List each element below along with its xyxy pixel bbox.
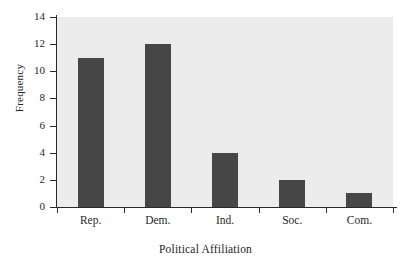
bars-layer — [57, 17, 393, 207]
y-tick-label: 0 — [40, 201, 46, 212]
bar-rep — [78, 58, 104, 207]
y-tick-mark — [50, 44, 57, 45]
bar-ind — [212, 153, 238, 207]
x-tick-mark — [124, 208, 125, 213]
y-tick-mark — [50, 153, 57, 154]
y-tick-mark — [50, 207, 57, 208]
y-tick-label: 8 — [40, 92, 46, 103]
bar-chart-figure: Frequency 02468101214 Rep.Dem.Ind.Soc.Co… — [0, 0, 411, 266]
y-tick-label: 6 — [40, 120, 46, 131]
bar-dem — [145, 44, 171, 207]
x-axis-title: Political Affiliation — [0, 243, 411, 255]
y-tick-label: 2 — [40, 174, 46, 185]
y-tick-label: 10 — [34, 65, 45, 76]
y-tick-mark — [50, 98, 57, 99]
y-tick-label: 12 — [34, 38, 45, 49]
bar-soc — [279, 180, 305, 207]
y-axis-title: Frequency — [13, 33, 25, 143]
x-axis-line — [56, 207, 397, 208]
y-tick-mark — [50, 126, 57, 127]
y-tick-mark — [50, 71, 57, 72]
bar-com — [346, 193, 372, 207]
x-tick-label: Rep. — [57, 214, 124, 227]
x-tick-mark — [259, 208, 260, 213]
y-tick-label: 4 — [40, 147, 46, 158]
x-tick-label: Dem. — [124, 214, 191, 227]
y-tick-mark — [50, 17, 57, 18]
y-tick-mark — [50, 180, 57, 181]
x-tick-label: Com. — [326, 214, 393, 227]
x-tick-mark — [57, 208, 58, 213]
x-tick-label: Ind. — [191, 214, 258, 227]
x-tick-mark — [191, 208, 192, 213]
x-tick-label: Soc. — [259, 214, 326, 227]
y-tick-label: 14 — [34, 11, 45, 22]
x-tick-mark — [393, 208, 394, 213]
x-tick-mark — [326, 208, 327, 213]
